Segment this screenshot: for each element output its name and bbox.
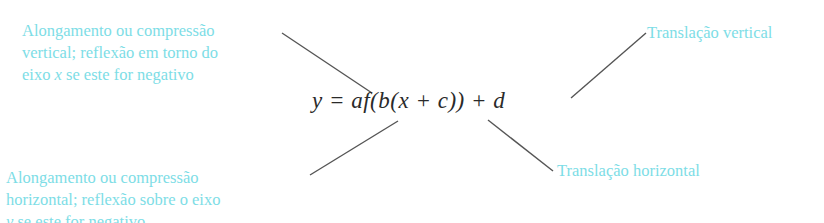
annotation-line: Translação vertical	[647, 22, 772, 44]
leader-line-vertical-translation	[571, 33, 646, 98]
annotation-line: y se este for negativo	[6, 211, 220, 223]
annotation-line: eixo x se este for negativo	[22, 64, 218, 86]
annotation-line: Alongamento ou compressão	[22, 20, 218, 42]
leader-line-horizontal-stretch	[310, 121, 398, 175]
annotation-line: vertical; reflexão em torno do	[22, 42, 218, 64]
transformation-formula: y = af(b(x + c)) + d	[312, 88, 505, 114]
leader-line-horizontal-translation	[488, 120, 553, 171]
annotation-line: Alongamento ou compressão	[6, 167, 220, 189]
annotation-vertical-stretch: Alongamento ou compressão vertical; refl…	[22, 20, 218, 86]
annotation-vertical-translation: Translação vertical	[647, 22, 772, 44]
annotation-line: horizontal; reflexão sobre o eixo	[6, 189, 220, 211]
leader-line-vertical-stretch	[282, 33, 372, 93]
annotation-horizontal-translation: Translação horizontal	[557, 160, 700, 182]
annotation-line: Translação horizontal	[557, 160, 700, 182]
annotation-horizontal-stretch: Alongamento ou compressão horizontal; re…	[6, 167, 220, 223]
